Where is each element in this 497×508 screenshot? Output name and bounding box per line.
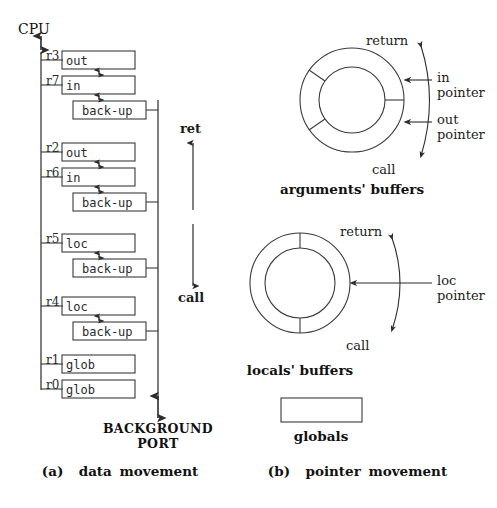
box-text-r0-glob: glob (66, 384, 95, 396)
figure-vector-layer (0, 0, 497, 508)
background-port-label-line1: BACKGROUND (98, 423, 218, 436)
arguments-call-label: call (372, 163, 395, 176)
register-label-r1: r1 (46, 354, 59, 366)
arguments-buffers-title: arguments' buffers (252, 183, 452, 197)
box-text-backup-1: back-up (82, 105, 133, 117)
register-label-r5: r5 (46, 233, 59, 245)
bus-call-label: call (178, 291, 204, 304)
locals-call-label: call (346, 339, 369, 352)
arguments-divider-upper-left (309, 70, 325, 81)
globals-title: globals (261, 430, 381, 444)
box-text-r4-loc: loc (66, 301, 88, 313)
arguments-out-pointer-label-line1: out (437, 113, 458, 126)
locals-return-label: return (340, 225, 382, 238)
arguments-out-pointer-label-line2: pointer (437, 128, 485, 141)
bus-ret-label: ret (180, 122, 201, 135)
box-text-backup-3: back-up (82, 263, 133, 275)
box-text-r7-in: in (66, 80, 80, 92)
locals-loc-pointer-label-line1: loc (437, 274, 456, 287)
arguments-return-label: return (366, 34, 408, 47)
locals-return-call-bracket (392, 238, 400, 330)
register-label-r3: r3 (46, 50, 59, 62)
arguments-divider-lower-left (309, 119, 325, 130)
register-label-r0: r0 (46, 379, 59, 391)
cpu-label: CPU (18, 22, 50, 36)
caption-panel-b: (b) pointer movement (250, 465, 465, 479)
background-port-label-line2: PORT (98, 438, 218, 451)
box-text-r3-out: out (66, 55, 88, 67)
arguments-ring-inner (319, 67, 385, 133)
box-text-backup-4: back-up (82, 326, 133, 338)
arguments-in-pointer-label-line1: in (437, 71, 450, 84)
arguments-in-pointer-label-line2: pointer (437, 86, 485, 99)
locals-ring-inner (265, 248, 335, 318)
locals-loc-pointer-label-line2: pointer (437, 289, 485, 302)
box-text-r6-in: in (66, 172, 80, 184)
locals-buffers-title: locals' buffers (212, 364, 388, 378)
register-label-r4: r4 (46, 296, 59, 308)
figure-root: CPU r3 r7 r2 r6 r5 r4 r1 r0 out in back-… (0, 0, 497, 508)
globals-rect (281, 398, 362, 422)
register-label-r2: r2 (46, 142, 59, 154)
box-text-backup-2: back-up (82, 197, 133, 209)
caption-panel-a: (a) data movement (20, 465, 220, 479)
arguments-return-call-bracket (421, 46, 430, 156)
register-label-r7: r7 (46, 75, 59, 87)
box-text-r5-loc: loc (66, 238, 88, 250)
register-label-r6: r6 (46, 167, 59, 179)
box-text-r2-out: out (66, 147, 88, 159)
box-text-r1-glob: glob (66, 359, 95, 371)
